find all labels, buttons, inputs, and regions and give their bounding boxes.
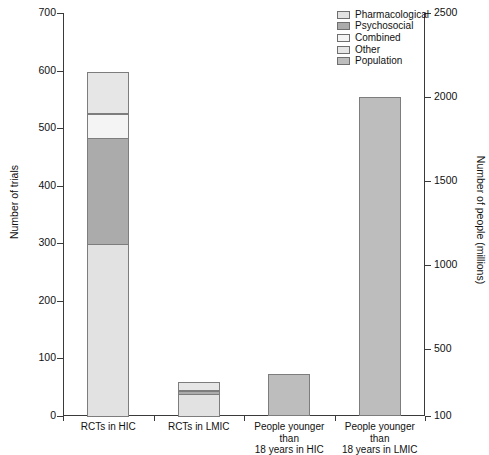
bar-segment-population (359, 97, 401, 416)
y-axis-left-tick (57, 13, 63, 14)
bar-3 (268, 374, 310, 416)
legend-swatch-icon (337, 34, 350, 42)
y-axis-right-tick-label: 500 (434, 343, 452, 353)
bar-segment-combined (87, 114, 129, 139)
y-axis-right-tick (425, 97, 431, 98)
y-axis-right-tick (425, 181, 431, 182)
y-axis-right-tick-label: 2500 (434, 7, 457, 17)
y-axis-right-tick-label: 1500 (434, 175, 457, 185)
legend-item-label: Combined (355, 33, 401, 43)
y-axis-left-tick-label: 200 (38, 295, 56, 305)
legend-item-label: Pharmacological (355, 10, 429, 20)
legend-item-label: Other (355, 45, 380, 55)
y-axis-right-tick (425, 265, 431, 266)
bar-segment-other (87, 72, 129, 114)
legend-swatch-icon (337, 46, 350, 54)
y-axis-right-tick-label: 2000 (434, 91, 457, 101)
y-axis-left-tick (57, 358, 63, 359)
y-axis-right-title: Number of people (millions) (475, 145, 487, 295)
legend-item-label: Psychosocial (355, 21, 413, 31)
legend-item-population[interactable]: Population (337, 55, 429, 67)
y-axis-left-tick-label: 700 (38, 7, 56, 17)
x-axis-category-label: RCTs in LMIC (154, 421, 245, 433)
y-axis-left-tick (57, 128, 63, 129)
legend-item-label: Population (355, 56, 402, 66)
bar-segment-pharmacological (178, 394, 220, 417)
x-axis-category-label-line: People younger than (335, 421, 426, 444)
x-axis-category-label-line: RCTs in HIC (63, 421, 154, 433)
legend-swatch-icon (337, 22, 350, 30)
x-axis-category-label: People younger than18 years in LMIC (335, 421, 426, 455)
x-axis-tick (425, 416, 426, 421)
x-axis-category-label-line: People younger than (244, 421, 335, 444)
bar-4 (359, 97, 401, 416)
y-axis-left-tick (57, 71, 63, 72)
legend-item-pharmacological[interactable]: Pharmacological (337, 9, 429, 21)
y-axis-right-tick (425, 349, 431, 350)
y-axis-left-tick-label: 600 (38, 65, 56, 75)
x-axis-category-label-line: RCTs in LMIC (154, 421, 245, 433)
x-axis-category-label: RCTs in HIC (63, 421, 154, 433)
legend-item-combined[interactable]: Combined (337, 32, 429, 44)
y-axis-left-tick-label: 100 (38, 352, 56, 362)
y-axis-left-tick (57, 301, 63, 302)
y-axis-left-tick (57, 243, 63, 244)
chart-legend: PharmacologicalPsychosocialCombinedOther… (337, 9, 429, 67)
y-axis-left-title: Number of trials (8, 142, 20, 262)
bar-1 (87, 69, 129, 416)
bar-segment-psychosocial (87, 138, 129, 246)
bar-2 (178, 380, 220, 416)
x-axis-category-label-line: 18 years in HIC (244, 444, 335, 455)
y-axis-left-tick-label: 0 (50, 410, 56, 420)
x-axis-category-label: People younger than18 years in HIC (244, 421, 335, 455)
y-axis-left-tick-label: 400 (38, 180, 56, 190)
bar-segment-other (178, 382, 220, 391)
y-axis-left-tick-label: 300 (38, 237, 56, 247)
legend-swatch-icon (337, 11, 350, 19)
legend-item-psychosocial[interactable]: Psychosocial (337, 21, 429, 33)
legend-swatch-icon (337, 57, 350, 65)
y-axis-right-tick-label: 1000 (434, 259, 457, 269)
y-axis-left-tick-label: 500 (38, 122, 56, 132)
y-axis-right-tick-label: 100 (434, 410, 452, 420)
bar-segment-population (268, 374, 310, 416)
bar-segment-pharmacological (87, 244, 129, 417)
legend-item-other[interactable]: Other (337, 44, 429, 56)
stacked-bar-chart-figure: Number of trials Number of people (milli… (0, 0, 489, 455)
y-axis-left-tick (57, 186, 63, 187)
x-axis-category-label-line: 18 years in LMIC (335, 444, 426, 455)
